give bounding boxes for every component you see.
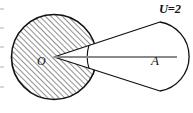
label-point-a: A: [151, 54, 159, 67]
geometry-figure: O A U=2: [0, 0, 193, 113]
figure-canvas: [0, 0, 193, 113]
label-region-value: U=2: [159, 3, 181, 16]
label-center-o: O: [37, 55, 46, 67]
